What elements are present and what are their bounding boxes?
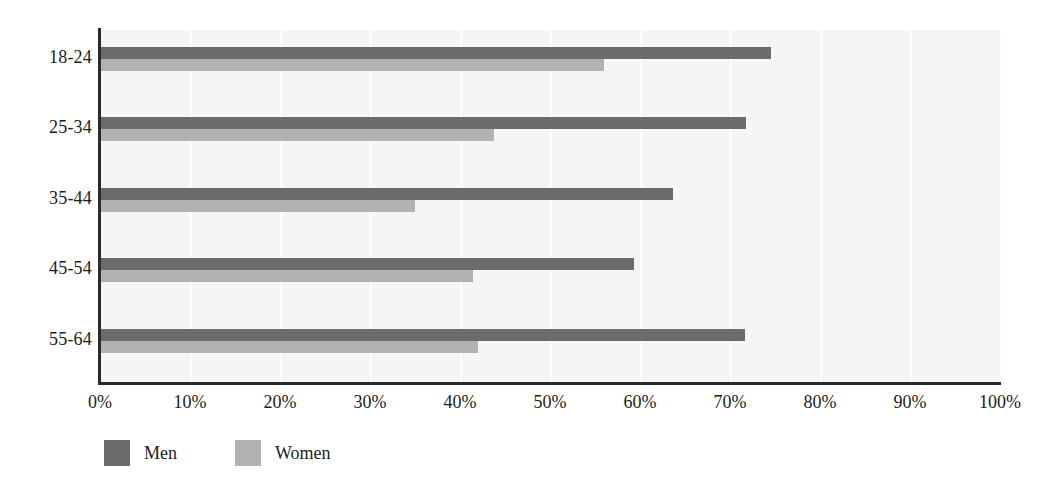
legend-label: Men xyxy=(144,443,177,464)
bar-chart: 18-2425-3435-4445-5455-64 0%10%20%30%40%… xyxy=(0,0,1059,486)
bar-group xyxy=(100,312,1000,382)
bar-men-45-54 xyxy=(100,258,634,270)
y-axis-tick-labels: 18-2425-3435-4445-5455-64 xyxy=(0,30,92,382)
chart-legend: MenWomen xyxy=(104,436,389,470)
bar-men-55-64 xyxy=(100,329,745,341)
x-tick-label-80%: 80% xyxy=(804,392,837,413)
y-tick-label-35-44: 35-44 xyxy=(6,188,92,209)
bar-women-25-34 xyxy=(100,129,494,141)
x-tick-label-30%: 30% xyxy=(354,392,387,413)
x-tick-label-10%: 10% xyxy=(174,392,207,413)
x-tick-label-50%: 50% xyxy=(534,392,567,413)
bar-group xyxy=(100,100,1000,170)
bar-men-25-34 xyxy=(100,117,746,129)
bar-women-35-44 xyxy=(100,200,415,212)
y-tick-label-18-24: 18-24 xyxy=(6,47,92,68)
bar-group xyxy=(100,241,1000,311)
legend-swatch-icon xyxy=(104,440,130,466)
x-axis-line xyxy=(98,382,1001,385)
bar-women-18-24 xyxy=(100,59,604,71)
x-tick-label-100%: 100% xyxy=(979,392,1021,413)
bar-women-55-64 xyxy=(100,341,478,353)
y-axis-line xyxy=(98,28,101,384)
x-tick-label-0%: 0% xyxy=(88,392,112,413)
legend-swatch-icon xyxy=(235,440,261,466)
x-tick-label-70%: 70% xyxy=(714,392,747,413)
legend-item-women[interactable]: Women xyxy=(235,440,331,466)
bar-men-35-44 xyxy=(100,188,673,200)
gridline xyxy=(1000,30,1002,382)
bar-men-18-24 xyxy=(100,47,771,59)
x-tick-label-20%: 20% xyxy=(264,392,297,413)
y-tick-label-45-54: 45-54 xyxy=(6,258,92,279)
y-tick-label-25-34: 25-34 xyxy=(6,117,92,138)
bar-women-45-54 xyxy=(100,270,473,282)
bar-group xyxy=(100,171,1000,241)
x-tick-label-90%: 90% xyxy=(894,392,927,413)
x-tick-label-60%: 60% xyxy=(624,392,657,413)
legend-label: Women xyxy=(275,443,331,464)
y-tick-label-55-64: 55-64 xyxy=(6,329,92,350)
plot-area xyxy=(100,30,1000,382)
x-tick-label-40%: 40% xyxy=(444,392,477,413)
legend-item-men[interactable]: Men xyxy=(104,440,177,466)
bar-group xyxy=(100,30,1000,100)
x-axis-tick-labels: 0%10%20%30%40%50%60%70%80%90%100% xyxy=(100,392,1000,422)
